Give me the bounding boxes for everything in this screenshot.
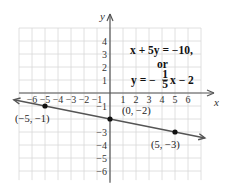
x-tick-label: 1	[121, 94, 126, 105]
y-tick-label: −5	[96, 153, 107, 164]
data-point	[172, 129, 177, 134]
y-tick-label: −1	[96, 101, 107, 112]
y-tick-label: 1	[102, 75, 107, 86]
x-tick-label: −2	[79, 94, 90, 105]
y-tick-label: −3	[96, 127, 107, 138]
point-label: (0, −2)	[122, 105, 151, 117]
data-point	[42, 103, 47, 108]
x-tick-label: 5	[173, 94, 178, 105]
x-tick-label: 2	[134, 94, 139, 105]
x-tick-label: 3	[147, 94, 152, 105]
x-tick-label: 6	[186, 94, 191, 105]
x-tick-label: −3	[66, 94, 77, 105]
x-axis-label: x	[213, 96, 219, 108]
x-tick-label: −4	[53, 94, 64, 105]
y-tick-label: 4	[102, 36, 107, 47]
data-point	[107, 116, 112, 121]
equation-standard-form: x + 5y = −10,	[130, 44, 193, 57]
y-tick-label: 2	[102, 62, 107, 73]
y-tick-label: −4	[96, 140, 107, 151]
y-axis-label: y	[99, 10, 105, 22]
x-tick-label: −5	[40, 94, 51, 105]
point-label: (−5, −1)	[15, 113, 50, 125]
point-label: (5, −3)	[151, 139, 180, 151]
coordinate-plane: xy−6−5−4−3−2−11234564321−1−3−4−5−6(−5, −…	[0, 0, 227, 195]
y-tick-label: −6	[96, 166, 107, 177]
x-tick-label: 4	[160, 94, 165, 105]
y-tick-label: 3	[102, 49, 107, 60]
equation-slope-intercept-prefix: y = −	[131, 74, 156, 87]
equation-slope-intercept-suffix: x − 2	[170, 74, 194, 86]
fraction-denominator: 5	[162, 78, 168, 90]
